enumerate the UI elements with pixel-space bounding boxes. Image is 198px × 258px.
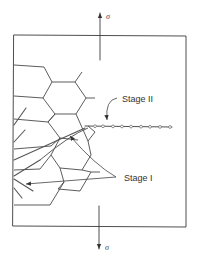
stage-two-crack <box>85 125 172 129</box>
striation-bead <box>102 125 105 128</box>
striation-bead <box>140 125 143 128</box>
striation-bead <box>149 125 152 128</box>
fatigue-crack-diagram: σ σ <box>0 0 198 258</box>
striation-bead <box>112 125 115 128</box>
stage-one-crack <box>40 128 88 160</box>
sigma-top-label: σ <box>106 12 111 21</box>
slip-bands <box>14 108 85 198</box>
striation-bead <box>169 126 172 129</box>
striation-bead <box>159 126 162 129</box>
sigma-bottom-label: σ <box>105 243 110 252</box>
stage-one-leader-lower <box>26 177 116 184</box>
stage-one-label: Stage I <box>124 173 153 183</box>
stage-one-leader-upper <box>70 136 116 177</box>
specimen-outline <box>13 35 186 227</box>
striation-bead <box>121 125 124 128</box>
stage-two-label: Stage II <box>122 94 153 104</box>
striation-bead <box>130 125 133 128</box>
stage-two-leader <box>107 98 117 120</box>
striation-bead <box>94 125 97 128</box>
